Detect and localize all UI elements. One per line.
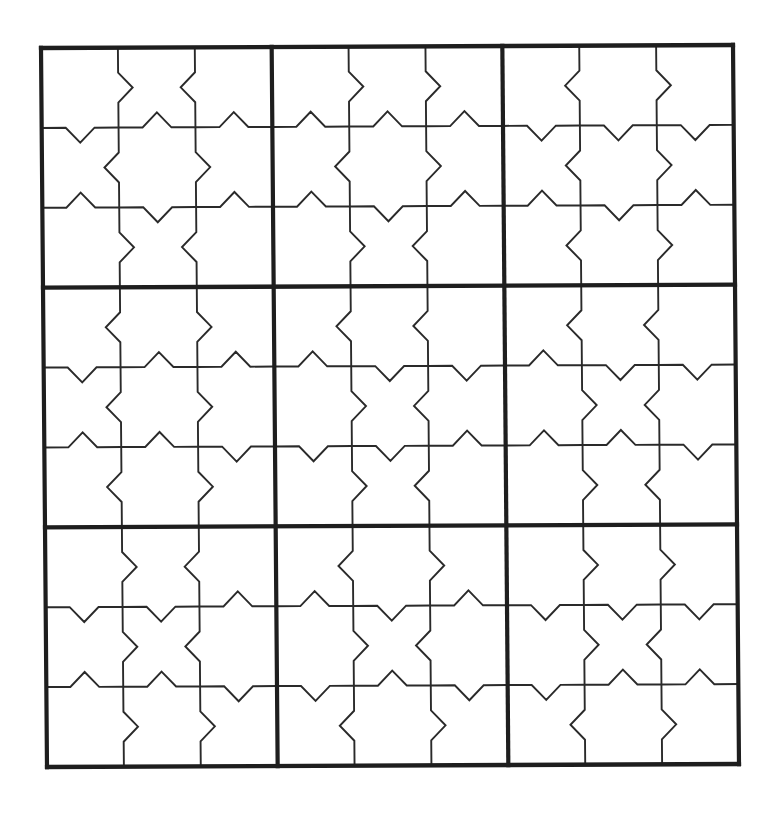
- cell-r9c4[interactable]: [277, 686, 355, 766]
- box-divider-horizontal: [43, 285, 735, 288]
- cell-r6c7[interactable]: [506, 445, 584, 525]
- cell-r9c7[interactable]: [508, 685, 586, 765]
- cell-r4c4[interactable]: [274, 286, 352, 366]
- cell-r9c6[interactable]: [431, 685, 509, 765]
- cell-r7c4[interactable]: [276, 526, 354, 606]
- cell-r5c3[interactable]: [197, 367, 275, 447]
- cell-r2c6[interactable]: [426, 126, 504, 206]
- cell-r1c6[interactable]: [425, 46, 503, 126]
- cell-r2c8[interactable]: [580, 125, 658, 205]
- cell-r3c5[interactable]: [350, 206, 428, 286]
- cell-r6c5[interactable]: [352, 446, 430, 526]
- cell-r7c8[interactable]: [583, 525, 661, 605]
- cell-r2c3[interactable]: [195, 127, 273, 207]
- cell-r3c7[interactable]: [504, 205, 582, 285]
- cell-r6c1[interactable]: [44, 447, 122, 527]
- cell-r4c9[interactable]: [658, 285, 736, 365]
- cell-r3c3[interactable]: [196, 207, 274, 287]
- cell-r9c9[interactable]: [661, 684, 739, 764]
- cell-r4c5[interactable]: [351, 286, 429, 366]
- cell-r5c7[interactable]: [505, 365, 583, 445]
- cell-r6c2[interactable]: [121, 447, 199, 527]
- cell-r3c4[interactable]: [273, 206, 351, 286]
- cell-r3c6[interactable]: [427, 206, 505, 286]
- cell-r8c9[interactable]: [661, 604, 739, 684]
- cell-r6c4[interactable]: [275, 446, 353, 526]
- cell-r6c8[interactable]: [583, 445, 661, 525]
- cell-r8c6[interactable]: [430, 605, 508, 685]
- cell-r1c2[interactable]: [118, 47, 196, 127]
- cell-r8c5[interactable]: [353, 606, 431, 686]
- cell-r6c9[interactable]: [659, 444, 737, 524]
- cell-r1c7[interactable]: [502, 46, 580, 126]
- cell-r3c9[interactable]: [657, 205, 735, 285]
- cell-r1c1[interactable]: [41, 48, 119, 128]
- cell-r9c1[interactable]: [46, 687, 124, 767]
- cell-r9c2[interactable]: [123, 686, 201, 766]
- cell-r7c1[interactable]: [45, 527, 123, 607]
- box-divider-horizontal: [45, 524, 737, 527]
- cell-r7c3[interactable]: [199, 526, 277, 606]
- cell-r5c4[interactable]: [274, 366, 352, 446]
- cell-r9c8[interactable]: [585, 684, 663, 764]
- cell-layer: [41, 45, 739, 767]
- outer-border: [41, 45, 733, 48]
- cell-r2c7[interactable]: [503, 126, 581, 206]
- cell-r4c3[interactable]: [197, 287, 275, 367]
- cell-r1c4[interactable]: [272, 47, 350, 127]
- puzzle-grid: [41, 45, 739, 767]
- cell-r5c9[interactable]: [659, 365, 737, 445]
- cell-r4c7[interactable]: [504, 285, 582, 365]
- cell-r5c6[interactable]: [428, 366, 506, 446]
- cell-r7c6[interactable]: [429, 525, 507, 605]
- cell-r4c8[interactable]: [581, 285, 659, 365]
- cell-r2c1[interactable]: [42, 128, 120, 208]
- cell-r8c7[interactable]: [507, 605, 585, 685]
- cell-r5c1[interactable]: [44, 367, 122, 447]
- cell-r1c8[interactable]: [579, 45, 657, 125]
- cell-r6c3[interactable]: [198, 446, 276, 526]
- cell-r8c1[interactable]: [46, 607, 124, 687]
- cell-r7c2[interactable]: [122, 527, 200, 607]
- cell-r3c8[interactable]: [581, 205, 659, 285]
- cell-r8c2[interactable]: [123, 607, 201, 687]
- cell-r2c2[interactable]: [119, 127, 197, 207]
- cell-r2c9[interactable]: [657, 125, 735, 205]
- cell-r5c5[interactable]: [351, 366, 429, 446]
- cell-r7c7[interactable]: [506, 525, 584, 605]
- cell-r8c3[interactable]: [199, 606, 277, 686]
- cell-r4c2[interactable]: [120, 287, 198, 367]
- outer-border: [47, 764, 739, 767]
- cell-r7c9[interactable]: [660, 524, 738, 604]
- cell-r9c3[interactable]: [200, 686, 278, 766]
- cell-r9c5[interactable]: [354, 685, 432, 765]
- cell-r4c1[interactable]: [43, 287, 121, 367]
- cell-r8c8[interactable]: [584, 605, 662, 685]
- cell-r1c3[interactable]: [195, 47, 273, 127]
- cell-r3c1[interactable]: [42, 207, 120, 287]
- cell-r3c2[interactable]: [119, 207, 197, 287]
- cell-r2c4[interactable]: [272, 127, 350, 207]
- cell-r1c5[interactable]: [349, 46, 427, 126]
- cell-r7c5[interactable]: [353, 526, 431, 606]
- cell-r1c9[interactable]: [656, 45, 734, 125]
- cell-r4c6[interactable]: [427, 286, 505, 366]
- cell-r6c6[interactable]: [429, 445, 507, 525]
- cell-r5c8[interactable]: [582, 365, 660, 445]
- cell-r8c4[interactable]: [276, 606, 354, 686]
- cell-r5c2[interactable]: [121, 367, 199, 447]
- puzzle-board: [0, 0, 776, 823]
- cell-r2c5[interactable]: [349, 126, 427, 206]
